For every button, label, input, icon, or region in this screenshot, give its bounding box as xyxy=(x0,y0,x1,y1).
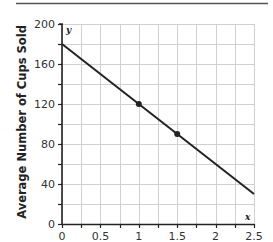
y-tick-label: 120 xyxy=(34,98,55,111)
y-axis-variable: y xyxy=(65,25,72,35)
y-tick-label: 80 xyxy=(41,138,55,151)
x-tick-label: 1.5 xyxy=(168,230,186,242)
x-tick-label: 0 xyxy=(59,230,66,242)
y-tick-label: 160 xyxy=(34,58,55,71)
x-tick-label: 2 xyxy=(212,230,219,242)
y-tick-label: 40 xyxy=(41,178,55,191)
x-tick-label: 1 xyxy=(135,230,142,242)
x-tick-label: 2.5 xyxy=(245,230,263,242)
line-chart: 00.511.522.504080120160200 Average Numbe… xyxy=(0,0,273,242)
y-tick-label: 200 xyxy=(34,18,55,31)
data-point xyxy=(136,101,142,107)
x-axis-variable: x xyxy=(244,212,251,222)
y-tick-label: 0 xyxy=(48,218,55,231)
ticks: 00.511.522.504080120160200 xyxy=(34,18,263,242)
x-tick-label: 0.5 xyxy=(92,230,110,242)
data-point xyxy=(174,131,180,137)
grid xyxy=(62,24,255,225)
y-axis-title: Average Number of Cups Sold xyxy=(15,25,29,219)
